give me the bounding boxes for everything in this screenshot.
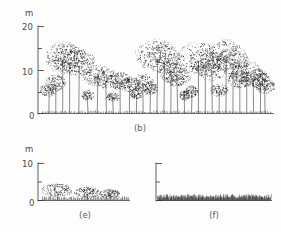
panel-e-tick-label-0: 0	[29, 198, 34, 208]
panel-e-shrub-layer	[42, 183, 129, 200]
figure-canvas: m 20 10 0 (b) m 10 0	[0, 0, 281, 232]
panel-b: m 20 10 0 (b)	[22, 8, 275, 133]
panel-b-caption: (b)	[134, 123, 146, 133]
panel-b-tick-label-20: 20	[22, 22, 33, 32]
panel-b-tick-label-0: 0	[29, 111, 34, 121]
panel-e-tick-label-10: 10	[22, 159, 33, 169]
panel-b-tree-stand	[40, 39, 275, 114]
panel-e-caption: (e)	[79, 210, 91, 220]
panel-b-tick-label-10: 10	[22, 67, 33, 77]
vegetation-profile-figure: m 20 10 0 (b) m 10 0	[0, 0, 281, 232]
panel-e-unit-label: m	[25, 144, 33, 154]
panel-e: m 10 0 (e)	[22, 144, 130, 220]
panel-f: (f)	[156, 163, 272, 220]
panel-f-grass-layer	[157, 194, 271, 201]
panel-f-caption: (f)	[209, 210, 219, 220]
panel-b-unit-label: m	[25, 8, 33, 18]
